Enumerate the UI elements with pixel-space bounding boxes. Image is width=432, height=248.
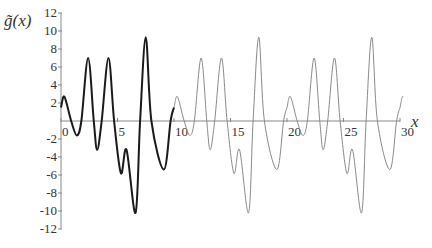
y-tick-label: -2 xyxy=(46,131,57,146)
y-tick-label: 12 xyxy=(44,5,57,20)
x-tick-label: 0 xyxy=(62,124,69,139)
y-tick-label: -12 xyxy=(40,221,57,236)
y-tick-label: 8 xyxy=(51,41,58,56)
y-tick-label: 2 xyxy=(51,95,58,110)
x-tick-label: 15 xyxy=(232,124,245,139)
y-axis-title: g̃(x) xyxy=(4,11,32,30)
x-tick-label: 25 xyxy=(345,124,358,139)
y-tick-label: 10 xyxy=(44,23,57,38)
axes xyxy=(58,13,400,229)
x-tick-label: 5 xyxy=(119,124,126,139)
y-axis-title-g: g̃ xyxy=(4,11,13,30)
x-axis-title: x xyxy=(410,112,419,131)
y-tick-label: 4 xyxy=(51,77,58,92)
y-tick-label: -10 xyxy=(40,203,57,218)
chart: -12-10-8-6-4-224681012051015202530 g̃(x)… xyxy=(0,0,432,248)
y-tick-label: -8 xyxy=(46,185,57,200)
y-tick-label: -6 xyxy=(46,167,57,182)
y-axis-title-arg: (x) xyxy=(13,11,32,30)
primary-curve xyxy=(61,37,174,213)
y-tick-label: -4 xyxy=(46,149,57,164)
y-tick-label: 6 xyxy=(51,59,58,74)
